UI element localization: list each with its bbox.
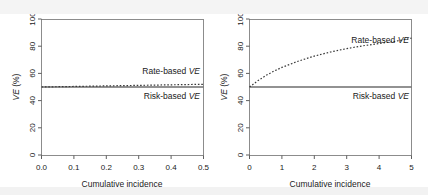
xtick-label: 4 [377, 163, 382, 172]
annotation-italic: VE [189, 66, 201, 76]
annotation-rate-based-ve-left: Rate-based VE [142, 66, 200, 76]
xtick-label: 3 [344, 163, 349, 172]
ytick-label: 80 [28, 41, 37, 50]
y-axis-title-left: VE (%) [11, 73, 21, 100]
y-axis-title-prefix: VE [219, 89, 229, 101]
chart-svg: 0 20 40 60 80 100 VE (%) 0.0 0.1 [0, 0, 428, 195]
annotation-prefix: Rate-based [351, 35, 397, 45]
ytick-label: 0 [28, 152, 37, 157]
xtick-label: 1 [280, 163, 285, 172]
y-axis-ticklabels-left: 0 20 40 60 80 100 [28, 12, 37, 157]
panel-right: 0 20 40 60 80 100 VE (%) 0 1 2 3 [219, 12, 414, 189]
annotation-rate-based-ve-right: Rate-based VE [351, 35, 409, 45]
annotation-prefix: Risk-based [144, 91, 189, 101]
bottom-margin-band [0, 187, 428, 195]
ytick-label: 40 [28, 96, 37, 105]
y-axis-title-prefix: VE [11, 89, 21, 101]
x-axis-ticklabels-right: 0 1 2 3 4 5 [247, 163, 414, 172]
y-axis-title-suffix: (%) [219, 73, 229, 89]
xtick-label: 0 [247, 163, 252, 172]
figure-canvas: 0 20 40 60 80 100 VE (%) 0.0 0.1 [0, 0, 428, 195]
annotation-italic: VE [398, 35, 410, 45]
annotation-prefix: Risk-based [353, 91, 398, 101]
y-axis-title-suffix: (%) [11, 73, 21, 89]
series-rate-based-ve-right [250, 38, 412, 87]
annotation-prefix: Rate-based [142, 66, 188, 76]
ytick-label: 60 [28, 68, 37, 77]
annotation-italic: VE [398, 91, 410, 101]
ytick-label: 80 [236, 41, 245, 50]
ytick-label: 20 [236, 123, 245, 132]
ytick-label: 20 [28, 123, 37, 132]
xtick-label: 0.2 [101, 163, 113, 172]
ytick-label: 40 [236, 96, 245, 105]
xtick-label: 5 [409, 163, 414, 172]
ytick-label: 60 [236, 68, 245, 77]
top-margin-band [0, 0, 428, 14]
xtick-label: 2 [312, 163, 317, 172]
y-axis-ticklabels-right: 0 20 40 60 80 100 [236, 12, 245, 157]
x-axis-ticks-left [42, 156, 204, 160]
xtick-label: 0.1 [68, 163, 80, 172]
y-axis-title-right: VE (%) [219, 73, 229, 100]
xtick-label: 0.3 [133, 163, 145, 172]
xtick-label: 0.4 [166, 163, 178, 172]
x-axis-ticks-right [250, 156, 412, 160]
x-axis-ticklabels-left: 0.0 0.1 0.2 0.3 0.4 0.5 [36, 163, 210, 172]
annotation-italic: VE [189, 91, 201, 101]
annotation-risk-based-ve-right: Risk-based VE [353, 91, 410, 101]
annotation-risk-based-ve-left: Risk-based VE [144, 91, 201, 101]
y-axis-ticks-right [246, 19, 250, 155]
panel-left: 0 20 40 60 80 100 VE (%) 0.0 0.1 [11, 12, 210, 189]
y-axis-ticks-left [38, 19, 42, 155]
xtick-label: 0.0 [36, 163, 48, 172]
ytick-label: 0 [236, 152, 245, 157]
xtick-label: 0.5 [198, 163, 210, 172]
